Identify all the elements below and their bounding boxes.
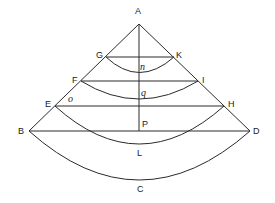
label-D: D: [253, 126, 260, 136]
label-K: K: [176, 50, 182, 60]
label-C: C: [137, 184, 144, 194]
label-I: I: [202, 75, 205, 85]
label-P: P: [142, 119, 148, 129]
label-E: E: [45, 99, 51, 109]
label-n: n: [140, 61, 145, 72]
diagram-canvas: A G K F I E H B D n q o P L C: [0, 0, 275, 203]
label-q: q: [141, 87, 146, 98]
label-A: A: [135, 6, 141, 16]
label-F: F: [72, 75, 78, 85]
label-L: L: [137, 148, 142, 158]
label-o: o: [68, 93, 73, 104]
label-H: H: [228, 99, 235, 109]
label-B: B: [18, 126, 24, 136]
side-AB: [29, 24, 139, 131]
label-G: G: [96, 50, 103, 60]
side-AD: [139, 24, 250, 131]
